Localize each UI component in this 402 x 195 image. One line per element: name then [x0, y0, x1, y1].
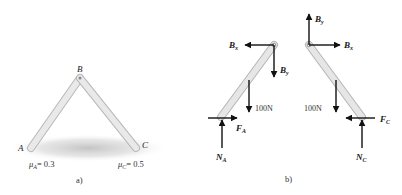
- figure-b-right: By Bx 100N FC NC: [304, 14, 391, 163]
- label-c: C: [142, 140, 149, 150]
- label-normal-a: NA: [215, 152, 227, 163]
- figure-b-left: Bx By 100N FA NA: [208, 40, 289, 163]
- label-b: B: [77, 64, 83, 74]
- caption-a: a): [76, 175, 83, 185]
- label-by-right: By: [314, 14, 324, 25]
- label-a: A: [17, 143, 24, 153]
- label-by-left: By: [279, 65, 289, 76]
- friction-coef-c: μC= 0.5: [117, 159, 144, 170]
- label-bx-right: Bx: [343, 40, 353, 51]
- label-weight-left: 100N: [255, 104, 273, 113]
- label-friction-a: FA: [235, 123, 246, 134]
- figure-a: B A C μA= 0.3 μC= 0.5 a): [8, 64, 168, 185]
- statics-diagram: B A C μA= 0.3 μC= 0.5 a) Bx By 100N FA N…: [0, 0, 402, 195]
- label-bx-left: Bx: [228, 40, 238, 51]
- label-normal-c: NC: [355, 152, 368, 163]
- label-weight-right: 100N: [304, 104, 322, 113]
- caption-b: b): [285, 174, 292, 184]
- pin-b: [79, 77, 82, 80]
- label-friction-c: FC: [379, 114, 391, 125]
- friction-coef-a: μA= 0.3: [28, 159, 55, 170]
